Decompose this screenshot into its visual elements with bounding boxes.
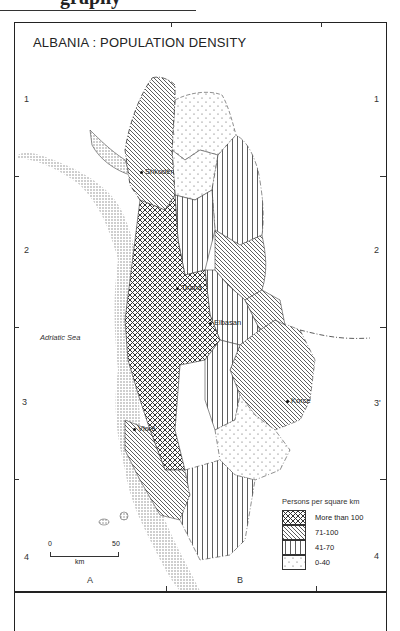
tick-right-3	[380, 479, 386, 480]
legend-item-71-100: 71-100	[282, 525, 363, 540]
city-marker-icon	[286, 400, 289, 403]
tick-right-2	[380, 327, 386, 328]
legend-label: 0-40	[315, 558, 330, 567]
grid-row-left-2: 2	[24, 245, 29, 255]
legend-label: 71-100	[315, 528, 338, 537]
legend-label: More than 100	[315, 513, 363, 522]
city-marker-icon	[133, 428, 136, 431]
legend-item-0-40: 0-40	[282, 555, 363, 570]
scale-end: 50	[112, 540, 120, 547]
tick-bottom-b	[316, 586, 317, 591]
legend-item-41-70: 41-70	[282, 540, 363, 555]
grid-col-b: B	[237, 575, 243, 585]
legend-title: Persons per square km	[282, 497, 363, 506]
crosshatch-swatch-icon	[282, 510, 306, 525]
city-elbasan: Elbasan	[209, 318, 241, 327]
map-title: ALBANIA : POPULATION DENSITY	[33, 35, 246, 50]
legend-item-more-than-100: More than 100	[282, 510, 363, 525]
city-marker-icon	[140, 171, 143, 174]
sea-label: Adriatic Sea	[40, 333, 80, 342]
city-vlore: Vlorë	[133, 424, 156, 433]
city-tirana: Tirana	[176, 283, 202, 292]
tick-left-2	[14, 327, 19, 328]
city-label: Elbasan	[214, 318, 241, 327]
legend-label: 41-70	[315, 543, 334, 552]
scale-line	[50, 552, 119, 557]
map-frame-bottom	[14, 591, 387, 593]
scale-unit: km	[75, 558, 84, 565]
grid-row-left-1: 1	[24, 94, 29, 104]
city-label: Shkodër	[145, 167, 173, 176]
scale-start: 0	[48, 540, 52, 547]
grid-row-right-1: 1	[374, 94, 379, 104]
grid-col-a: A	[87, 575, 93, 585]
city-shkoder: Shkodër	[140, 167, 173, 176]
city-korce: Korce	[286, 396, 311, 405]
grid-row-left-4: 4	[24, 552, 29, 562]
grid-row-right-4: 4	[374, 551, 379, 561]
diagonal-swatch-icon	[282, 525, 306, 540]
vertical-swatch-icon	[282, 540, 306, 555]
dots-swatch-icon	[282, 555, 306, 570]
legend: Persons per square km More than 100 71-1…	[282, 497, 363, 570]
grid-row-right-3: 3'	[374, 398, 381, 408]
city-marker-icon	[209, 322, 212, 325]
tick-top-a	[171, 22, 172, 27]
grid-row-left-3: 3	[22, 397, 27, 407]
city-marker-icon	[176, 287, 179, 290]
tick-top-b	[321, 22, 322, 27]
tick-right-1	[380, 176, 386, 177]
grid-row-right-2: 2	[374, 245, 379, 255]
tick-bottom-a	[166, 586, 167, 591]
city-label: Tirana	[181, 283, 202, 292]
tick-left-3	[14, 479, 19, 480]
city-label: Vlorë	[138, 424, 156, 433]
city-label: Korce	[291, 396, 311, 405]
tick-left-1	[14, 176, 19, 177]
